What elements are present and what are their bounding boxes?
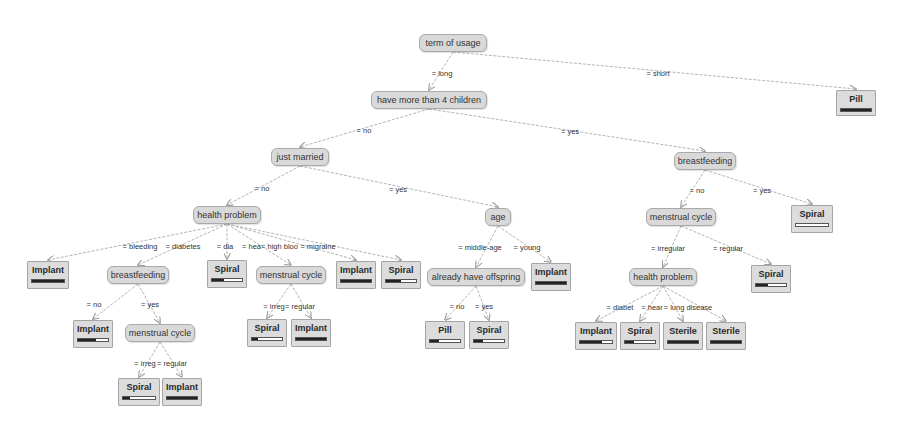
leaf-node-spiral_irreg2[interactable]: Spiral — [118, 378, 160, 406]
leaf-node-spiral_heart[interactable]: Spiral — [620, 322, 660, 350]
node-label: Implant — [580, 326, 612, 336]
tree-edges — [0, 0, 906, 434]
leaf-node-implant_diab[interactable]: Implant — [575, 322, 617, 350]
node-label: health problem — [197, 210, 257, 220]
class-distribution-bar — [795, 223, 829, 227]
class-distribution-bar — [295, 337, 327, 341]
node-label: Implant — [77, 324, 109, 334]
node-label: Implant — [295, 323, 327, 333]
edge-label: = regular — [713, 244, 743, 253]
class-distribution-bar — [251, 337, 283, 341]
leaf-node-implant_reg2[interactable]: Implant — [162, 378, 202, 406]
split-node-mc_right[interactable]: menstrual cycle — [646, 208, 716, 226]
edge-label: = bleeding — [123, 242, 158, 251]
class-distribution-bar — [840, 108, 872, 112]
node-label: age — [490, 212, 505, 222]
leaf-node-implant_reg1[interactable]: Implant — [291, 319, 331, 347]
edge-label: = no — [450, 302, 465, 311]
leaf-node-spiral_irreg1[interactable]: Spiral — [247, 319, 287, 347]
split-node-bf_diab[interactable]: breastfeeding — [107, 266, 169, 284]
split-node-root[interactable]: term of usage — [419, 34, 487, 52]
node-label: term of usage — [425, 38, 480, 48]
edge-label: = irreg — [134, 359, 155, 368]
class-distribution-bar — [77, 338, 109, 342]
node-label: Pill — [438, 325, 452, 335]
node-label: Sterile — [669, 326, 697, 336]
edge-label: = yes — [561, 127, 579, 136]
node-label: Spiral — [758, 269, 783, 279]
edge-label: = regular — [157, 359, 187, 368]
node-label: health problem — [633, 272, 693, 282]
edge-label: = hea= high bloo — [242, 242, 298, 251]
leaf-node-implant_young[interactable]: Implant — [531, 263, 571, 291]
leaf-node-spiral_mig[interactable]: Spiral — [381, 261, 421, 289]
split-node-bf_yes[interactable]: breastfeeding — [674, 152, 736, 170]
leaf-node-implant_mig[interactable]: Implant — [336, 261, 376, 289]
class-distribution-bar — [166, 396, 198, 400]
class-distribution-bar — [710, 340, 742, 344]
edge-label: = diabet — [607, 303, 634, 312]
node-label: Spiral — [799, 209, 824, 219]
edge-label: = diabetes — [166, 242, 201, 251]
split-node-n_children[interactable]: have more than 4 children — [371, 91, 487, 109]
split-node-age[interactable]: age — [485, 208, 511, 226]
class-distribution-bar — [624, 340, 656, 344]
node-label: Spiral — [126, 382, 151, 392]
class-distribution-bar — [473, 339, 505, 343]
leaf-node-spiral_yes[interactable]: Spiral — [469, 321, 509, 349]
leaf-node-implant_no[interactable]: Implant — [73, 320, 113, 348]
edge-label: = yes — [389, 185, 407, 194]
edge-label: = middle-age — [458, 243, 502, 252]
edge-label: = lung disease — [664, 303, 713, 312]
class-distribution-bar — [535, 281, 567, 285]
leaf-node-implant_bleed[interactable]: Implant — [27, 261, 69, 289]
class-distribution-bar — [385, 279, 417, 283]
split-node-just_married[interactable]: just married — [271, 148, 329, 166]
split-node-mc_high[interactable]: menstrual cycle — [256, 266, 326, 284]
split-node-mc_yes[interactable]: menstrual cycle — [125, 324, 195, 342]
edge-label: = short — [646, 69, 669, 78]
class-distribution-bar — [31, 279, 65, 283]
leaf-node-pill_short[interactable]: Pill — [836, 90, 876, 116]
leaf-node-pill_no[interactable]: Pill — [425, 321, 465, 349]
leaf-node-spiral_dia[interactable]: Spiral — [207, 260, 247, 288]
edge-label: = no — [357, 126, 372, 135]
edge-label: = yes — [141, 300, 159, 309]
edge-label: = regular — [285, 302, 315, 311]
edge-label: = irreg — [263, 302, 284, 311]
edge-label: = dia — [217, 242, 233, 251]
node-label: just married — [276, 152, 323, 162]
decision-tree-canvas: term of usagehave more than 4 childrenPi… — [0, 0, 906, 434]
class-distribution-bar — [755, 283, 787, 287]
node-label: Implant — [535, 267, 567, 277]
node-label: Implant — [32, 265, 64, 275]
split-node-hp_left[interactable]: health problem — [193, 206, 261, 224]
node-label: already have offspring — [432, 272, 520, 282]
leaf-node-sterile_lung[interactable]: Sterile — [663, 322, 703, 350]
edge-label: = irregular — [651, 244, 685, 253]
node-label: menstrual cycle — [129, 328, 192, 338]
edge-label: = no — [690, 186, 705, 195]
edge-label: = yes — [475, 302, 493, 311]
edge-label: = migraine — [300, 242, 335, 251]
node-label: Spiral — [627, 326, 652, 336]
split-node-hp_right[interactable]: health problem — [629, 268, 697, 286]
node-label: have more than 4 children — [377, 95, 481, 105]
class-distribution-bar — [211, 278, 243, 282]
split-node-offspring[interactable]: already have offspring — [427, 268, 525, 286]
edge-label: = no — [255, 184, 270, 193]
edge-label: = young — [514, 243, 541, 252]
edge-label: = hear — [641, 303, 662, 312]
leaf-node-sterile_other[interactable]: Sterile — [706, 322, 746, 350]
node-label: Spiral — [254, 323, 279, 333]
edge-label: = no — [87, 300, 102, 309]
leaf-node-spiral_bf[interactable]: Spiral — [791, 205, 833, 233]
node-label: menstrual cycle — [650, 212, 713, 222]
class-distribution-bar — [122, 396, 156, 400]
class-distribution-bar — [667, 340, 699, 344]
leaf-node-spiral_reg[interactable]: Spiral — [751, 265, 791, 293]
edge-label: = long — [432, 69, 453, 78]
node-label: menstrual cycle — [260, 270, 323, 280]
node-label: Spiral — [214, 264, 239, 274]
node-label: Implant — [166, 382, 198, 392]
